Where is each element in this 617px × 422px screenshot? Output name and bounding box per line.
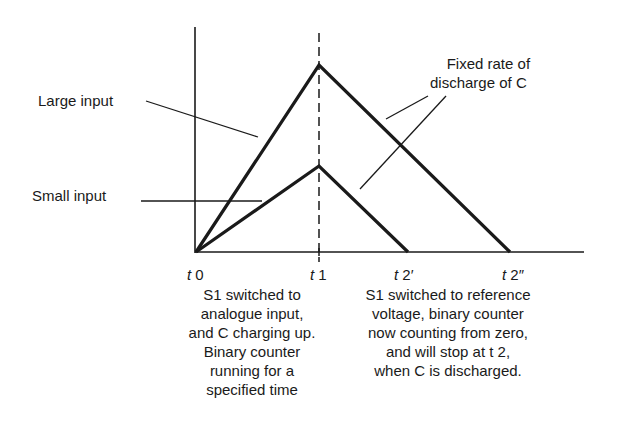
tick-t2s-var: t: [394, 266, 398, 283]
caption-right-line: now counting from zero,: [330, 323, 566, 342]
discharge-label: Fixed rate of discharge of C: [430, 54, 527, 92]
caption-left-line: and C charging up.: [158, 323, 346, 342]
tick-t0-var: t: [187, 266, 191, 283]
tick-t0-num: 0: [195, 266, 203, 283]
caption-left-line: Binary counter: [158, 342, 346, 361]
small-input-curve: [196, 166, 408, 252]
caption-right-line: when C is discharged.: [330, 361, 566, 380]
large-input-label: Large input: [38, 91, 113, 110]
discharge-leader-large: [386, 96, 428, 119]
tick-t1-var: t: [310, 266, 314, 283]
tick-t2s-num: 2′: [402, 266, 413, 283]
discharge-label-line2: discharge of C: [430, 73, 527, 92]
discharge-label-line1: Fixed rate of: [440, 54, 537, 73]
caption-left-line: specified time: [158, 380, 346, 399]
tick-label-t1: t 1: [310, 266, 327, 284]
tick-t2l-var: t: [502, 266, 506, 283]
large-input-leader: [146, 101, 258, 137]
caption-left-line: S1 switched to: [158, 285, 346, 304]
caption-left: S1 switched to analogue input, and C cha…: [158, 285, 346, 399]
caption-left-line: running for a: [158, 361, 346, 380]
caption-right-line: S1 switched to reference: [330, 285, 566, 304]
tick-label-t0: t 0: [187, 266, 204, 284]
tick-label-t2-large: t 2″: [502, 266, 524, 284]
small-input-label: Small input: [32, 186, 106, 205]
tick-t1-num: 1: [318, 266, 326, 283]
caption-right-line: and will stop at t 2,: [330, 342, 566, 361]
large-input-curve: [196, 65, 510, 252]
caption-right: S1 switched to reference voltage, binary…: [330, 285, 566, 380]
caption-right-line: voltage, binary counter: [330, 304, 566, 323]
tick-t2l-num: 2″: [510, 266, 524, 283]
caption-left-line: analogue input,: [158, 304, 346, 323]
tick-label-t2-small: t 2′: [394, 266, 414, 284]
